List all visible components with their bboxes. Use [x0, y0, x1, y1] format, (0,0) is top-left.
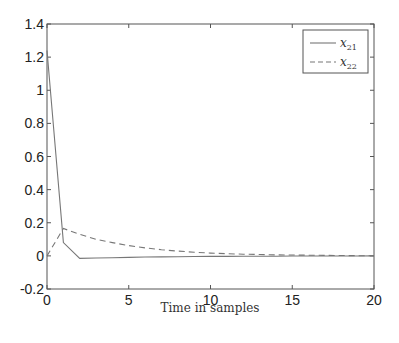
y-tick-label: -0.2	[20, 281, 44, 297]
y-tick-label: 0	[36, 248, 44, 264]
legend: x21x22	[303, 30, 368, 73]
y-tick-label: 1	[36, 82, 44, 98]
y-tick-label: 1.4	[25, 16, 45, 32]
line-chart: -0.200.20.40.60.811.21.4 05101520 Time i…	[0, 0, 399, 343]
x-tick-label: 20	[366, 292, 382, 308]
x-tick-label: 5	[125, 292, 133, 308]
x-tick-label: 0	[43, 292, 51, 308]
legend-box	[303, 30, 368, 73]
x-tick-label: 15	[284, 292, 300, 308]
y-tick-label: 0.2	[25, 215, 45, 231]
y-tick-label: 0.6	[25, 149, 45, 165]
y-tick-label: 0.8	[25, 115, 45, 131]
y-tick-label: 1.2	[25, 49, 45, 65]
x-axis-label: Time in samples	[161, 301, 260, 315]
y-tick-label: 0.4	[25, 182, 45, 198]
y-axis-tick-labels: -0.200.20.40.60.811.21.4	[20, 16, 44, 297]
